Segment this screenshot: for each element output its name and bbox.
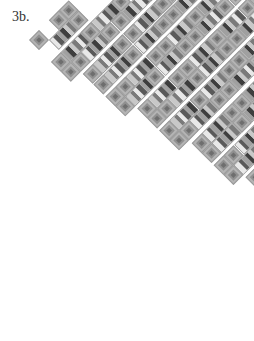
square-in-square-block bbox=[29, 30, 49, 50]
figure: 3b. bbox=[0, 0, 254, 341]
figure-label: 3b. bbox=[12, 9, 30, 25]
